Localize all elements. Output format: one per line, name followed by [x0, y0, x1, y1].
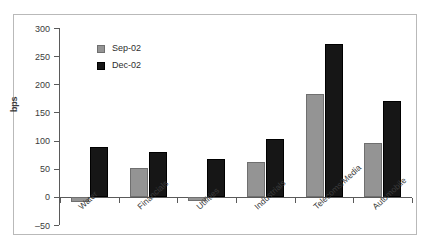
y-tick-label: 100	[35, 137, 50, 146]
y-tick-label: 150	[35, 108, 50, 117]
y-tick-label: 50	[40, 165, 50, 174]
y-axis-title: bps	[9, 97, 19, 112]
x-tick	[236, 198, 237, 203]
chart-legend: Sep-02 Dec-02	[97, 40, 141, 74]
y-tick-label: 300	[35, 24, 50, 33]
y-tick: 50	[54, 169, 59, 170]
legend-label-sep: Sep-02	[112, 44, 141, 53]
y-tick: 300	[54, 28, 59, 29]
y-tick-label: 250	[35, 52, 50, 61]
legend-swatch-icon-dec	[97, 62, 105, 70]
legend-item-dec: Dec-02	[97, 57, 141, 74]
y-tick: –50	[54, 225, 59, 226]
x-tick	[119, 198, 120, 203]
x-tick	[353, 198, 354, 203]
bar-sep-02-financials	[130, 168, 148, 197]
x-tick	[412, 198, 413, 203]
bar-sep-02-industrials	[247, 162, 265, 197]
y-tick: 100	[54, 141, 59, 142]
bar-sep-02-telecoms-media	[306, 94, 324, 196]
y-tick-label: –50	[35, 221, 50, 230]
y-axis-line	[59, 28, 60, 225]
y-tick-label: 0	[45, 193, 50, 202]
y-tick: 200	[54, 84, 59, 85]
legend-label-dec: Dec-02	[112, 61, 141, 70]
y-tick-label: 200	[35, 80, 50, 89]
legend-swatch-icon-sep	[97, 45, 105, 53]
y-tick: 0	[54, 197, 59, 198]
bar-sep-02-automobile	[364, 143, 382, 197]
x-tick	[295, 198, 296, 203]
bar-dec-02-telecoms-media	[325, 44, 343, 197]
y-tick: 150	[54, 112, 59, 113]
x-tick	[60, 198, 61, 203]
legend-item-sep: Sep-02	[97, 40, 141, 57]
x-tick	[177, 198, 178, 203]
y-tick: 250	[54, 56, 59, 57]
chart-figure: bps –50050100150200250300 WaterFinancial…	[0, 0, 432, 252]
